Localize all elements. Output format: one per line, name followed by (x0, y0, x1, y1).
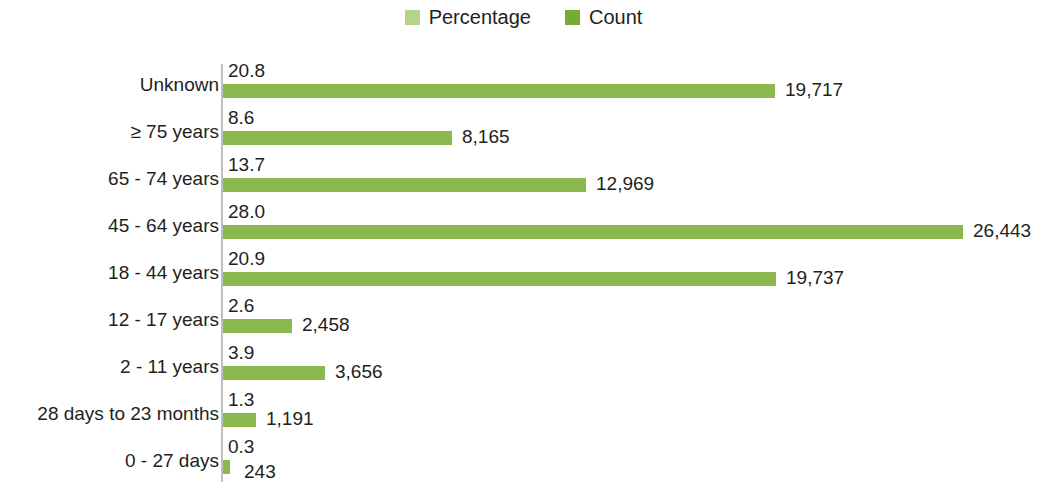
category-label: 2 - 11 years (120, 356, 219, 378)
category-label: ≥ 75 years (130, 121, 219, 143)
bar-row: 65 - 74 years13.712,969 (0, 152, 1047, 199)
category-label: 28 days to 23 months (37, 403, 219, 425)
category-label: 0 - 27 days (125, 450, 219, 472)
percentage-value-label: 20.9 (228, 248, 265, 269)
category-label: 12 - 17 years (108, 309, 219, 331)
percentage-value-label: 2.6 (228, 295, 254, 316)
count-bar[interactable] (223, 413, 256, 427)
category-label: 18 - 44 years (108, 262, 219, 284)
bar-row: 28 days to 23 months1.31,191 (0, 387, 1047, 434)
percentage-value-label: 0.3 (228, 436, 254, 457)
bar-row: 2 - 11 years3.93,656 (0, 340, 1047, 387)
category-label: 45 - 64 years (108, 215, 219, 237)
legend-label-percentage: Percentage (429, 7, 531, 27)
count-value-label: 19,717 (785, 79, 843, 100)
bar-row: Unknown20.819,717 (0, 58, 1047, 105)
legend-label-count: Count (589, 7, 642, 27)
percentage-value-label: 20.8 (228, 60, 265, 81)
count-bar[interactable] (223, 272, 776, 286)
category-label: Unknown (140, 74, 219, 96)
bar-row: 0 - 27 days0.3243 (0, 434, 1047, 481)
count-bar[interactable] (223, 84, 775, 98)
count-value-label: 8,165 (462, 126, 510, 147)
count-value-label: 12,969 (596, 173, 654, 194)
count-value-label: 2,458 (302, 314, 350, 335)
chart-legend: Percentage Count (0, 0, 1047, 34)
count-bar[interactable] (223, 131, 452, 145)
bar-row: 12 - 17 years2.62,458 (0, 293, 1047, 340)
bar-row: 45 - 64 years28.026,443 (0, 199, 1047, 246)
count-bar[interactable] (223, 178, 586, 192)
legend-swatch-percentage-icon (405, 10, 420, 25)
percentage-value-label: 1.3 (228, 389, 254, 410)
count-value-label: 26,443 (973, 220, 1031, 241)
count-bar[interactable] (223, 319, 292, 333)
count-bar[interactable] (223, 460, 230, 474)
category-label: 65 - 74 years (108, 168, 219, 190)
count-value-label: 243 (244, 461, 276, 482)
count-value-label: 19,737 (786, 267, 844, 288)
bar-row: ≥ 75 years8.68,165 (0, 105, 1047, 152)
percentage-value-label: 13.7 (228, 154, 265, 175)
legend-swatch-count-icon (565, 10, 580, 25)
legend-entry-percentage[interactable]: Percentage (405, 7, 531, 27)
bar-chart: Percentage Count Unknown20.819,717≥ 75 y… (0, 0, 1047, 483)
count-bar[interactable] (223, 225, 963, 239)
plot-area: Unknown20.819,717≥ 75 years8.68,16565 - … (0, 58, 1047, 483)
percentage-value-label: 28.0 (228, 201, 265, 222)
count-bar[interactable] (223, 366, 325, 380)
percentage-value-label: 8.6 (228, 107, 254, 128)
count-value-label: 3,656 (335, 361, 383, 382)
bar-row: 18 - 44 years20.919,737 (0, 246, 1047, 293)
legend-entry-count[interactable]: Count (565, 7, 642, 27)
count-value-label: 1,191 (266, 408, 314, 429)
percentage-value-label: 3.9 (228, 342, 254, 363)
